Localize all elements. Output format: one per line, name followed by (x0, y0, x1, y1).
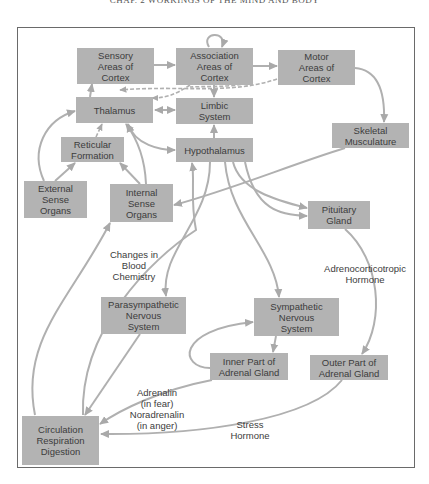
edge-label-blood-chemistry: Changes in Blood Chemistry (104, 249, 164, 282)
node-hypothalamus: Hypothalamus (176, 138, 253, 162)
edge-label-stress-hormone: Stress Hormone (220, 419, 280, 441)
node-reticular-formation: Reticular Formation (61, 137, 124, 162)
node-internal-sense-organs: Internal Sense Organs (110, 184, 173, 222)
node-thalamus: Thalamus (76, 97, 153, 123)
node-association-cortex: Association Areas of Cortex (176, 48, 253, 85)
node-outer-adrenal-gland: Outer Part of Adrenal Gland (310, 355, 388, 380)
node-parasympathetic-nervous-system: Parasympathetic Nervous System (101, 297, 186, 334)
node-pituitary-gland: Pituitary Gland (308, 201, 370, 229)
node-sympathetic-nervous-system: Sympathetic Nervous System (254, 298, 339, 336)
node-limbic-system: Limbic System (176, 98, 253, 124)
edge-label-acth: Adrenocorticotropic Hormone (310, 263, 420, 285)
node-external-sense-organs: External Sense Organs (24, 181, 87, 218)
node-skeletal-musculature: Skeletal Musculature (332, 123, 409, 148)
node-sensory-cortex: Sensory Areas of Cortex (77, 48, 154, 84)
node-circulation-respiration-digestion: Circulation Respiration Digestion (22, 416, 99, 465)
node-motor-cortex: Motor Areas of Cortex (278, 50, 355, 85)
edge-label-adrenalin: Adrenalin (in fear) Noradrenalin (in ang… (122, 387, 192, 431)
node-inner-adrenal-gland: Inner Part of Adrenal Gland (210, 353, 288, 380)
